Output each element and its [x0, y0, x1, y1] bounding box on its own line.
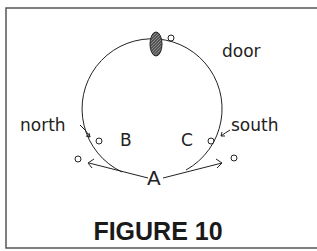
point-north: [96, 138, 102, 144]
point-south: [208, 138, 214, 144]
north-pointer: [80, 125, 90, 137]
label-door: door: [222, 41, 261, 61]
point-right: [231, 155, 237, 161]
label-north: north: [20, 115, 66, 135]
arrow-right: [163, 163, 222, 178]
room-circle: [82, 39, 222, 172]
arrow-left: [89, 163, 148, 178]
door-marker: [150, 32, 162, 56]
point-top: [168, 35, 174, 41]
label-b: B: [120, 130, 132, 150]
south-pointer: [221, 130, 230, 136]
figure-diagram: door north south B C A FIGURE 10: [0, 0, 317, 251]
point-left: [75, 156, 81, 162]
label-south: south: [231, 115, 278, 135]
figure-caption: FIGURE 10: [93, 217, 222, 245]
label-a: A: [147, 166, 161, 190]
label-c: C: [181, 130, 193, 150]
